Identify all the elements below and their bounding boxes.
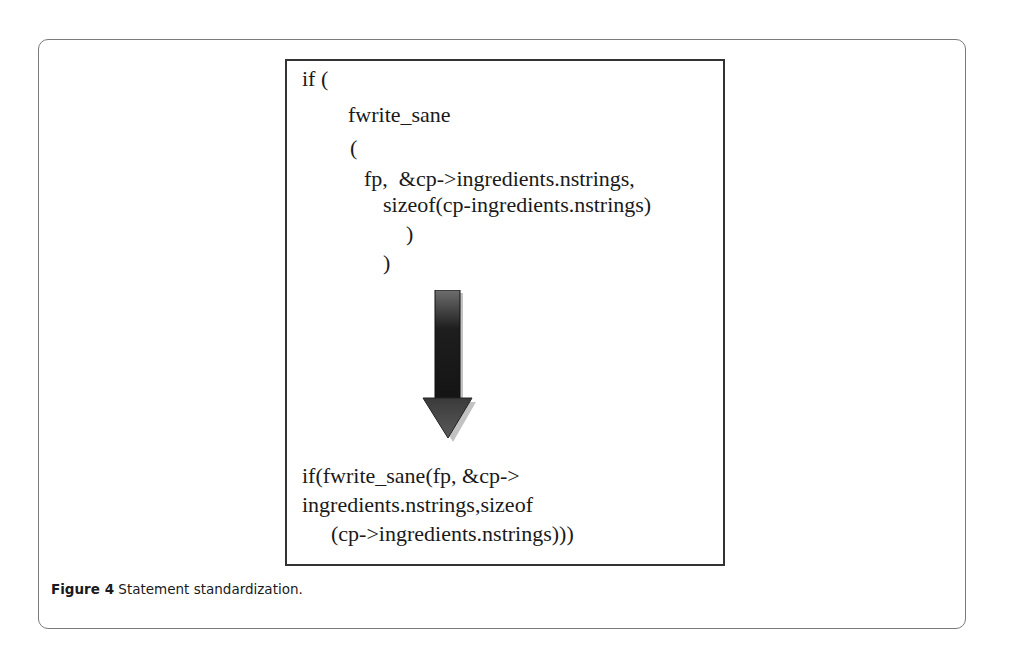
code-line: ) [383,250,390,276]
figure-caption: Figure 4 Statement standardization. [51,581,303,597]
code-line: ) [406,221,413,247]
code-line: (cp->ingredients.nstrings))) [331,521,574,547]
code-line: fwrite_sane [348,102,451,128]
arrow-down-icon [420,290,480,445]
code-line: if ( [302,66,328,92]
code-line: ingredients.nstrings,sizeof [302,492,533,518]
code-line: sizeof(cp-ingredients.nstrings) [383,192,651,218]
code-line: fp, &cp->ingredients.nstrings, [364,166,635,192]
code-line: if(fwrite_sane(fp, &cp-> [302,463,520,489]
code-line: ( [350,135,357,161]
figure-caption-text: Statement standardization. [114,581,303,597]
figure-caption-label: Figure 4 [51,581,114,597]
